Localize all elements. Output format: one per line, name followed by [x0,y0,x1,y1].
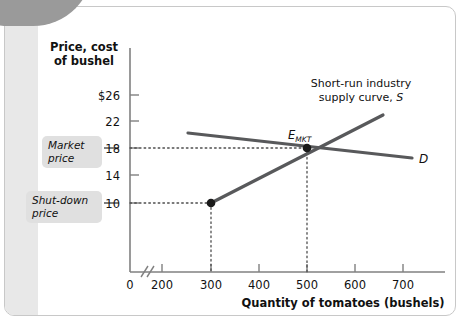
y-tick-label-22: 22 [84,115,120,129]
x-tick-label-500: 500 [287,278,327,292]
x-tick-marks [162,264,403,272]
shutdown-point-marker [207,199,216,208]
demand-curve-label: D [419,152,428,166]
y-tick-label-14: 14 [84,169,120,183]
x-tick-label-300: 300 [191,278,231,292]
shutdown-price-callout-line1: Shut-down [32,194,96,207]
supply-curve-symbol: S [396,91,403,104]
equilibrium-point-marker [303,144,312,153]
equilibrium-label: EMKT [288,128,311,144]
y-tick-marks [130,95,139,203]
shutdown-price-callout: Shut-down price [26,191,102,223]
shutdown-price-callout-line2: price [32,207,96,220]
x-tick-label-700: 700 [383,278,423,292]
supply-curve-label: Short-run industry supply curve, S [296,77,426,105]
x-tick-label-200: 200 [142,278,182,292]
x-axis-title: Quantity of tomatoes (bushels) [233,296,453,310]
equilibrium-label-sub: MKT [295,135,311,144]
figure-root: Price, cost of bushel $26 22 18 14 10 0 … [0,0,466,332]
market-price-callout-line2: price [48,152,96,165]
y-tick-label-26: $26 [84,89,120,103]
supply-curve-label-line1: Short-run industry [296,77,426,91]
market-price-callout: Market price [42,136,102,168]
supply-curve-label-text: supply curve, [319,91,393,104]
x-tick-label-600: 600 [335,278,375,292]
x-tick-label-400: 400 [239,278,279,292]
y-axis-title-line2: of bushel [45,54,123,68]
y-axis-title: Price, cost of bushel [45,40,123,68]
y-axis-title-line1: Price, cost [45,40,123,54]
supply-curve-label-line2: supply curve, S [296,91,426,105]
market-price-callout-line1: Market [48,139,96,152]
